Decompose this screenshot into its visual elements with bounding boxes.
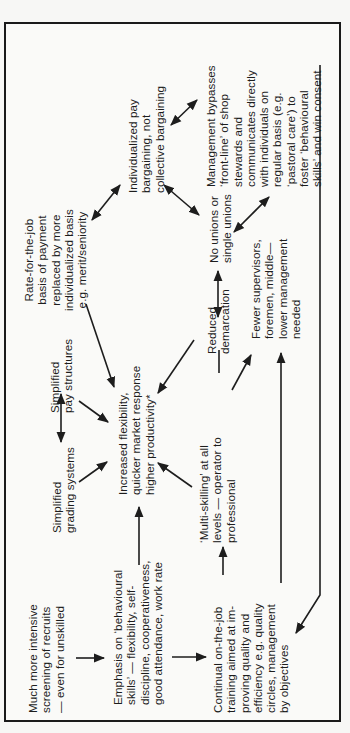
node-screening: Much more intensive screening of recruit…: [26, 604, 66, 713]
arrow-grading-flexibility: [79, 462, 107, 482]
node-increased-flexibility: Increased flexibility, quicker market re…: [116, 366, 156, 495]
arrow-pay-flexibility: [79, 401, 108, 422]
node-individualized-pay: Individualized pay bargaining, not colle…: [126, 86, 166, 193]
node-management-bypasses: Management bypasses ‘front-line’ of shop…: [204, 65, 324, 187]
node-fewer-supervisors: Fewer supervisors, foremen, middle— lowe…: [249, 239, 302, 339]
arrow-multiskilling-flexibility: [158, 463, 192, 487]
node-simplified-grading: Simplified grading systems: [50, 447, 77, 533]
node-on-the-job-training: Continual on-the-job training aimed at i…: [211, 603, 291, 713]
arrow-rate-individualpay: [92, 185, 120, 220]
arrow-rate-flexibility: [86, 304, 114, 387]
node-multi-skilling: ‘Multi-skilling’ at all levels — operato…: [197, 437, 237, 543]
arrow-multiskilling-supervisors: [232, 355, 251, 390]
node-simplified-pay: Simplified pay structures: [48, 339, 75, 413]
arrow-individualpay-management: [171, 100, 197, 125]
node-rate-for-the-job: Rate-for-the-job basis of payment replac…: [22, 209, 88, 311]
arrow-unions-management: [234, 197, 269, 232]
arrow-individualpay-unions: [164, 185, 199, 215]
node-behavioural-skills: Emphasis on ‘behavioural skills’ — flexi…: [111, 560, 164, 705]
arrow-demarcation-flexibility: [158, 340, 194, 393]
node-reduced-demarcation: Reduced demarcation: [205, 289, 232, 354]
node-no-unions: No unions or single unions: [207, 194, 234, 263]
diagram-canvas: Much more intensive screening of recruit…: [4, 22, 344, 725]
